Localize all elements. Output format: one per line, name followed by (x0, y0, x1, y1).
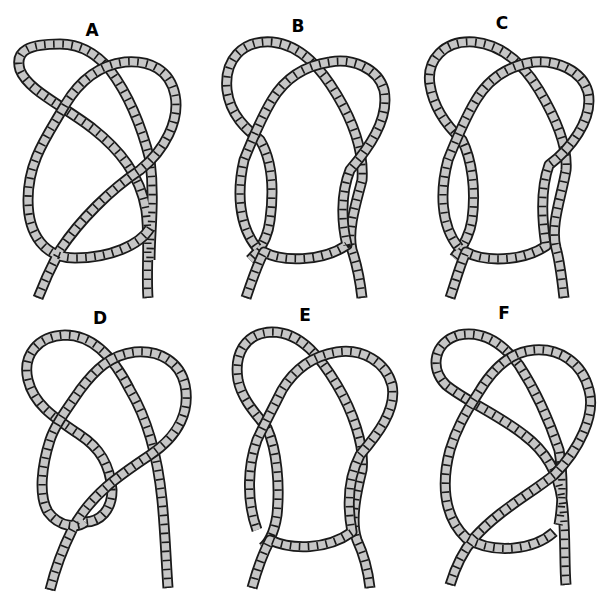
knot-panel-f: F (404, 300, 606, 600)
knot-illustration-a (0, 0, 202, 300)
knot-panel-a: A (0, 0, 202, 300)
knot-panel-d: D (0, 300, 202, 600)
knot-panel-c: C (404, 0, 606, 300)
knot-panel-e: E (202, 300, 404, 600)
knot-illustration-d (0, 300, 202, 600)
knot-panel-b: B (202, 0, 404, 300)
knot-illustration-b (202, 0, 404, 300)
knot-illustration-f (404, 300, 606, 600)
knot-illustration-e (202, 300, 404, 600)
knot-illustration-c (404, 0, 606, 300)
